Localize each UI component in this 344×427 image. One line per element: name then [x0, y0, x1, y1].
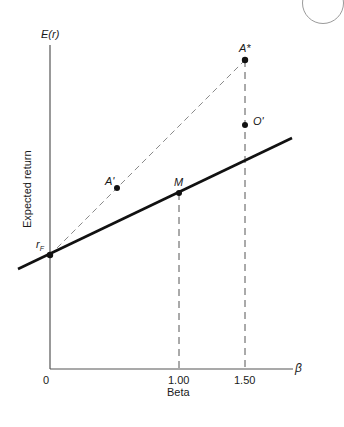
point-rf	[47, 252, 53, 258]
label-m: M	[174, 176, 183, 188]
label-rf-sub: F	[40, 245, 44, 252]
x-axis-title: Beta	[167, 386, 190, 398]
dashed-line-rf-to-a-star	[50, 60, 245, 255]
tick-label-1-50: 1.50	[234, 374, 255, 386]
point-o-prime	[242, 122, 248, 128]
label-a-prime: A'	[105, 175, 114, 187]
label-a-star: A*	[239, 42, 251, 54]
security-market-line	[18, 138, 292, 269]
x-axis-symbol: β	[295, 361, 302, 375]
point-a-prime	[114, 185, 120, 191]
tick-label-0: 0	[43, 374, 49, 386]
label-rf: rF	[36, 238, 44, 252]
tick-label-1-00: 1.00	[168, 374, 189, 386]
point-m	[176, 190, 182, 196]
point-a-star	[242, 57, 248, 63]
y-axis-title: Expected return	[21, 150, 33, 228]
label-o-prime: O'	[253, 115, 264, 127]
y-axis-symbol: E(r)	[41, 28, 59, 40]
